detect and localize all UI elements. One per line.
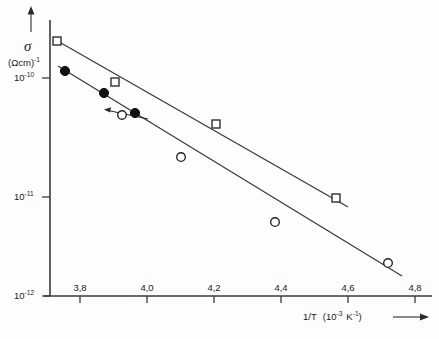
guide-arrow-head-icon <box>104 107 111 112</box>
x-axis-label: 1/T(10-3K-1) <box>303 310 362 322</box>
data-point-square-1 <box>53 37 61 45</box>
data-point-filled-circle-2 <box>99 88 108 97</box>
data-point-square-3 <box>212 120 220 128</box>
fit-line-lower <box>58 66 402 276</box>
data-point-open-circle-4 <box>384 259 393 268</box>
fit-line-upper <box>54 39 348 207</box>
right-arrow-icon <box>393 314 429 321</box>
chart-figure: 10-10 10-11 10-12 σ (Ωcm)-1 3,8 4,0 4,2 … <box>0 0 439 339</box>
guide-segment-annotation <box>106 110 148 119</box>
x-tick-label-4-6: 4,6 <box>341 282 354 293</box>
data-point-filled-circle-3 <box>130 108 139 117</box>
y-tick-label-1e-11: 10-11 <box>14 190 34 202</box>
data-point-square-4 <box>332 194 340 202</box>
y-tick-label-1e-12: 10-12 <box>14 289 34 301</box>
y-axis-unit: (Ωcm)-1 <box>8 56 40 68</box>
x-tick-label-3-8: 3,8 <box>73 282 86 293</box>
data-point-open-circle-2 <box>177 153 186 162</box>
x-tick-label-4-0: 4,0 <box>140 282 153 293</box>
data-point-open-circle-1 <box>118 111 127 120</box>
data-point-filled-circle-1 <box>60 66 69 75</box>
x-tick-label-4-4: 4,4 <box>274 282 287 293</box>
arrhenius-plot: 10-10 10-11 10-12 σ (Ωcm)-1 3,8 4,0 4,2 … <box>0 0 439 339</box>
up-arrow-icon <box>28 6 35 32</box>
x-tick-label-4-8: 4,8 <box>408 282 421 293</box>
y-axis-symbol: σ <box>24 38 32 54</box>
data-point-square-2 <box>111 78 119 86</box>
y-tick-label-1e-10: 10-10 <box>14 71 34 83</box>
data-point-open-circle-3 <box>271 218 280 227</box>
x-tick-label-4-2: 4,2 <box>207 282 220 293</box>
